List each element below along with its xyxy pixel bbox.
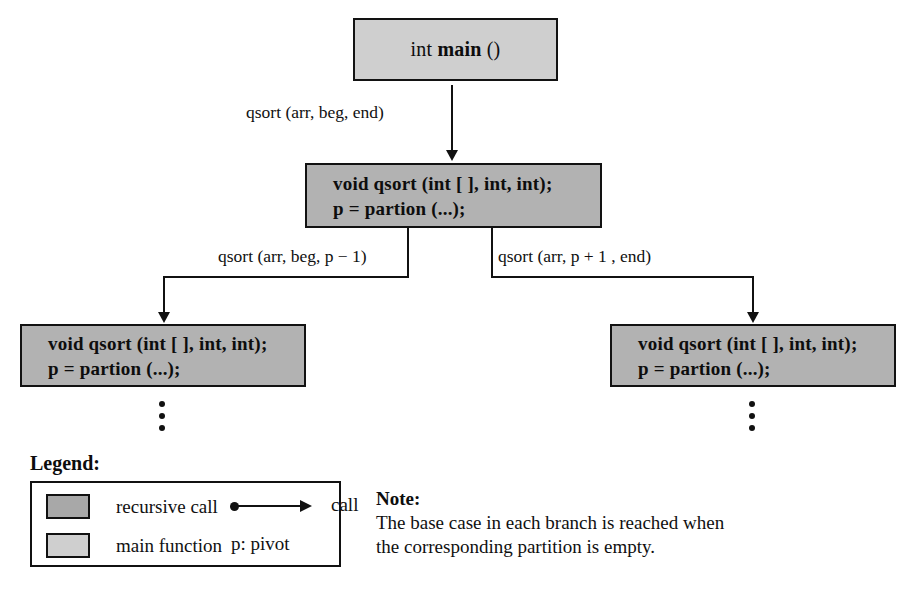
node-qsort-right-line2: p = partion (...); xyxy=(638,356,894,381)
node-int-main[interactable]: int main () xyxy=(353,18,558,81)
legend-arrow-shaft xyxy=(237,505,302,507)
edge-root-to-left-drop xyxy=(163,276,165,314)
ellipsis-dot xyxy=(159,401,165,407)
node-qsort-right-line1: void qsort (int [ ], int, int); xyxy=(638,331,894,356)
edge-root-to-right-horizontal xyxy=(491,276,754,278)
legend-label-main-function: main function xyxy=(116,535,222,557)
edge-root-to-right-drop xyxy=(752,276,754,314)
node-qsort-root-line1: void qsort (int [ ], int, int); xyxy=(333,171,600,196)
edge-root-to-left-stub xyxy=(407,228,409,278)
diagram-canvas: int main () qsort (arr, beg, end) void q… xyxy=(0,0,917,596)
node-qsort-right-line1-text: void qsort (int [ ], int, int); xyxy=(638,333,857,354)
edge-root-to-right-arrowhead xyxy=(747,312,759,323)
edge-root-to-left-horizontal xyxy=(163,276,409,278)
node-qsort-root[interactable]: void qsort (int [ ], int, int); p = part… xyxy=(305,163,602,228)
edge-main-to-root-line xyxy=(451,85,453,152)
node-qsort-left-line1: void qsort (int [ ], int, int); xyxy=(48,331,304,356)
legend-row-main-function: main function xyxy=(46,533,222,558)
recursive-call-swatch xyxy=(46,494,90,519)
legend-label-p-pivot: p: pivot xyxy=(231,533,290,555)
node-main-label: int main () xyxy=(411,37,501,62)
legend-label-recursive-call: recursive call xyxy=(116,496,218,518)
node-main-label-prefix: int xyxy=(411,38,438,60)
legend-title: Legend: xyxy=(30,452,100,475)
node-qsort-left-line2-text: p = partion (...); xyxy=(48,358,181,379)
edge-label-root-to-left: qsort (arr, beg, p − 1) xyxy=(218,248,367,266)
node-qsort-root-line2-text: p = partion (...); xyxy=(333,198,466,219)
legend-label-call: call xyxy=(331,494,358,516)
node-main-label-suffix: () xyxy=(482,38,501,60)
node-main-label-bold: main xyxy=(437,38,481,60)
ellipsis-dot xyxy=(749,401,755,407)
node-qsort-right[interactable]: void qsort (int [ ], int, int); p = part… xyxy=(610,324,896,387)
note-title: Note: xyxy=(376,487,724,511)
ellipsis-dot xyxy=(749,425,755,431)
ellipsis-right-branch xyxy=(749,401,755,431)
edge-label-root-to-right: qsort (arr, p + 1 , end) xyxy=(498,248,651,266)
ellipsis-left-branch xyxy=(159,401,165,431)
note-line-1: The base case in each branch is reached … xyxy=(376,511,724,535)
node-qsort-left-line1-text: void qsort (int [ ], int, int); xyxy=(48,333,267,354)
legend-call-arrow-icon xyxy=(230,498,325,516)
edge-root-to-right-stub xyxy=(491,228,493,278)
node-qsort-left-line2: p = partion (...); xyxy=(48,356,304,381)
note-block: Note: The base case in each branch is re… xyxy=(376,487,724,559)
edge-label-main-to-root: qsort (arr, beg, end) xyxy=(246,104,384,122)
legend-arrow-head xyxy=(300,500,312,512)
ellipsis-dot xyxy=(749,413,755,419)
ellipsis-dot xyxy=(159,413,165,419)
legend-row-recursive-call: recursive call xyxy=(46,494,218,519)
node-qsort-root-line1-text: void qsort (int [ ], int, int); xyxy=(333,173,552,194)
node-qsort-root-line2: p = partion (...); xyxy=(333,196,600,221)
ellipsis-dot xyxy=(159,425,165,431)
edge-root-to-left-arrowhead xyxy=(158,312,170,323)
note-line-2: the corresponding partition is empty. xyxy=(376,535,724,559)
main-function-swatch xyxy=(46,533,90,558)
edge-main-to-root-arrowhead xyxy=(446,150,458,161)
node-qsort-right-line2-text: p = partion (...); xyxy=(638,358,771,379)
node-qsort-left[interactable]: void qsort (int [ ], int, int); p = part… xyxy=(20,324,306,387)
